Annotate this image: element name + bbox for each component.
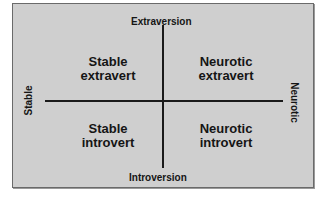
quadrant-bottom-left: Stable introvert: [58, 122, 158, 150]
quadrant-bottom-right: Neurotic introvert: [176, 122, 276, 150]
quadrant-subtitle: introvert: [58, 136, 158, 150]
axis-label-bottom: Introversion: [129, 172, 187, 183]
quadrant-top-right: Neurotic extravert: [176, 55, 276, 83]
horizontal-axis-line: [45, 100, 283, 102]
quadrant-subtitle: extravert: [58, 69, 158, 83]
quadrant-subtitle: extravert: [176, 69, 276, 83]
quadrant-title: Neurotic: [176, 122, 276, 136]
quadrant-title: Stable: [58, 122, 158, 136]
quadrant-top-left: Stable extravert: [58, 55, 158, 83]
axis-label-left: Stable: [23, 85, 34, 115]
vertical-axis-line: [162, 25, 164, 168]
quadrant-title: Neurotic: [176, 55, 276, 69]
axis-label-right: Neurotic: [289, 82, 300, 123]
quadrant-title: Stable: [58, 55, 158, 69]
axis-label-top: Extraversion: [131, 16, 192, 27]
quadrant-subtitle: introvert: [176, 136, 276, 150]
